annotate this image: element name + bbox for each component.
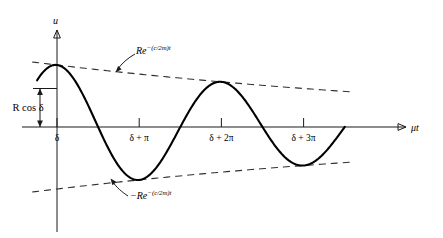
x-axis-tick-label-3: δ + 3π: [292, 133, 316, 143]
lower-envelope-exponent: −(c/2m)t: [147, 189, 172, 197]
amplitude-measure-label: R cos δ: [12, 102, 43, 113]
upper-envelope-exponent: −(c/2m)t: [147, 44, 172, 52]
measure-arrowhead-up: [37, 89, 43, 96]
lower-envelope-label: −Re−(c/2m)t: [130, 189, 173, 201]
x-axis-tick-label-2: δ + 2π: [209, 133, 233, 143]
upper-envelope-label: Re−(c/2m)t: [135, 44, 172, 56]
measure-arrowhead-down: [37, 121, 43, 128]
y-axis-label: u: [53, 15, 58, 26]
lower-annotation-arrowhead: [111, 179, 117, 186]
damped-oscillation-chart: R cos δ Re−(c/2m)t −Re−(c/2m)t μt u δδ +…: [0, 0, 443, 238]
axes-group: [22, 30, 406, 232]
damped-oscillation-curve: [37, 65, 345, 180]
upper-envelope-annotation-group: Re−(c/2m)t: [116, 44, 172, 73]
x-axis-tick-labels: δδ + πδ + 2πδ + 3π: [55, 133, 316, 143]
x-axis-label: μt: [410, 122, 419, 133]
x-axis-tick-label-0: δ: [55, 133, 60, 143]
x-axis-tick-label-1: δ + π: [130, 133, 150, 143]
upper-envelope-base: Re: [135, 45, 147, 56]
lower-envelope-curve: [32, 162, 352, 192]
amplitude-measure-group: R cos δ: [12, 89, 57, 128]
lower-envelope-base: −Re: [130, 190, 148, 201]
figure-root: R cos δ Re−(c/2m)t −Re−(c/2m)t μt u δδ +…: [0, 0, 443, 238]
